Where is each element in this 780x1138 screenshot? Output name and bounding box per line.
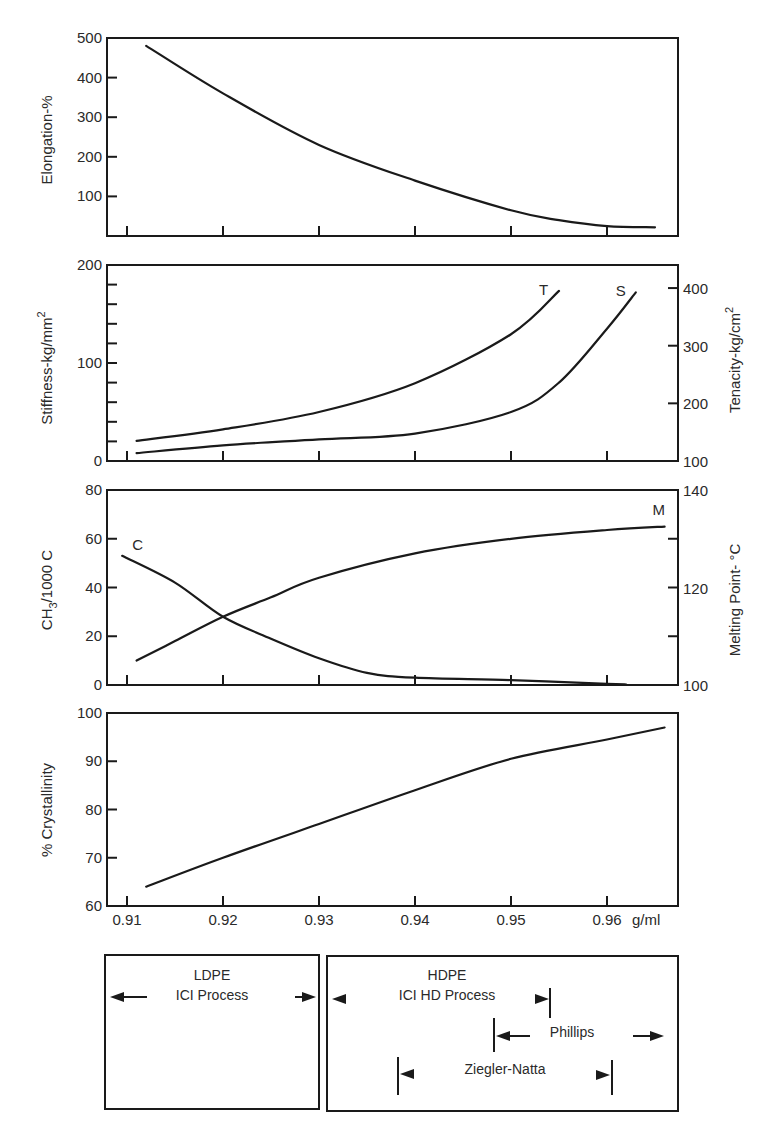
phillips-right-arrow-icon [633,1031,664,1041]
y-right-tick-label: 100 [683,453,708,470]
x-tick-label: 0.94 [400,911,429,928]
tenacity-label-text: Tenacity-kg/cm [726,313,743,413]
curve-label-t: T [539,281,548,298]
elongation-panel: 100200300400500 Elongation-% [38,29,678,236]
y-tick-label: 90 [85,752,102,769]
y-tick-label: 200 [77,148,102,165]
melting-point-line [137,527,665,661]
y-tick-label: 80 [85,481,102,498]
y-tick-label: 100 [77,187,102,204]
curve-label-c: C [132,536,143,553]
elongation-x-ticks [127,226,607,236]
elongation-line [146,46,655,227]
melting-axis-label: Melting Point- °C [726,543,743,656]
y-tick-label: 0 [94,452,102,469]
elongation-curve [146,46,655,227]
crystallinity-line [146,728,664,887]
x-tick-label: 0.95 [496,911,525,928]
y-right-tick-label: 140 [683,482,708,499]
branching-axis-label: CH3/1000 C [38,550,59,631]
branching-label-ch: CH [38,609,55,631]
y-tick-label: 70 [85,849,102,866]
elongation-y-ticks: 100200300400500 [77,29,117,204]
tenacity-line [137,291,559,441]
ici-hd-process-label: ICI HD Process [399,987,495,1003]
ziegler-left-arrow-icon [398,1057,414,1095]
stiffness-frame [107,265,678,461]
ldpe-title: LDPE [194,967,231,983]
y-tick-label: 60 [85,897,102,914]
hdpe-box-frame [327,956,678,1111]
ldpe-left-arrow-icon [110,992,147,1002]
crystallinity-axis-label: % Crystallinity [38,762,55,857]
crystallinity-x-ticks [127,896,607,906]
ici-hd-right-arrow-icon [535,988,550,1018]
y-right-tick-label: 100 [683,677,708,694]
ldpe-process-label: ICI Process [176,987,248,1003]
density-unit-label: g/ml [632,911,660,928]
stiffness-label-text: Stiffness-kg/mm [38,317,55,424]
x-tick-label: 0.93 [304,911,333,928]
ldpe-process-box: LDPE ICI Process [105,955,319,1109]
phillips-label: Phillips [550,1024,594,1040]
crystallinity-panel: 60708090100 0.910.920.930.940.950.96 g/m… [38,704,678,928]
y-tick-label: 20 [85,627,102,644]
y-tick-label: 40 [85,579,102,596]
y-tick-label: 100 [77,354,102,371]
curve-label-s: S [616,282,626,299]
branching-frame [107,490,678,685]
y-tick-label: 60 [85,530,102,547]
tenacity-label-sup: 2 [723,307,735,313]
branching-melting-panel: 020406080 100120140 CH3/1000 C Melting P… [38,481,743,694]
tenacity-axis-label: Tenacity-kg/cm2 [723,307,743,413]
y-tick-label: 100 [77,704,102,721]
ziegler-natta-label: Ziegler-Natta [465,1061,546,1077]
x-tick-label: 0.96 [592,911,621,928]
tenacity-y-ticks: 100200300400 [668,280,708,470]
stiffness-label-sup: 2 [35,311,47,317]
ldpe-right-arrow-icon [295,992,316,1002]
phillips-left-arrow-icon [494,1018,530,1052]
density-x-tick-labels: 0.910.920.930.940.950.96 [112,911,621,928]
crystallinity-curve [146,728,664,887]
stiffness-line [137,292,636,453]
polyethylene-property-figure: 100200300400500 Elongation-% 0100200 100… [0,0,780,1138]
stiffness-tenacity-panel: 0100200 100200300400 Stiffness-kg/mm2 Te… [35,256,743,470]
x-tick-label: 0.91 [112,911,141,928]
melting-y-ticks: 100120140 [668,482,708,694]
stiffness-x-ticks [127,451,607,461]
crystallinity-y-ticks: 60708090100 [77,704,117,914]
stiffness-tenacity-curves: TS [137,281,636,453]
y-tick-label: 200 [77,256,102,273]
ici-hd-left-arrow-icon [332,994,346,1004]
branching-melting-curves: CM [122,501,665,685]
y-right-tick-label: 120 [683,580,708,597]
y-right-tick-label: 300 [683,338,708,355]
hdpe-process-box: HDPE ICI HD Process Phillips Ziegler-Nat… [327,956,678,1111]
y-right-tick-label: 400 [683,280,708,297]
elongation-axis-label: Elongation-% [38,95,55,184]
y-tick-label: 0 [94,676,102,693]
y-tick-label: 400 [77,69,102,86]
elongation-frame [107,38,678,236]
x-tick-label: 0.92 [208,911,237,928]
curve-label-m: M [653,501,666,518]
y-tick-label: 300 [77,108,102,125]
branching-label-rest: /1000 C [38,550,55,603]
branching-line [122,556,626,685]
branching-y-ticks: 020406080 [85,481,117,693]
y-tick-label: 80 [85,801,102,818]
stiffness-y-ticks: 0100200 [77,256,117,469]
hdpe-title: HDPE [428,967,467,983]
ziegler-right-arrow-icon [596,1060,612,1095]
y-tick-label: 500 [77,29,102,46]
stiffness-axis-label: Stiffness-kg/mm2 [35,311,55,424]
y-right-tick-label: 200 [683,395,708,412]
